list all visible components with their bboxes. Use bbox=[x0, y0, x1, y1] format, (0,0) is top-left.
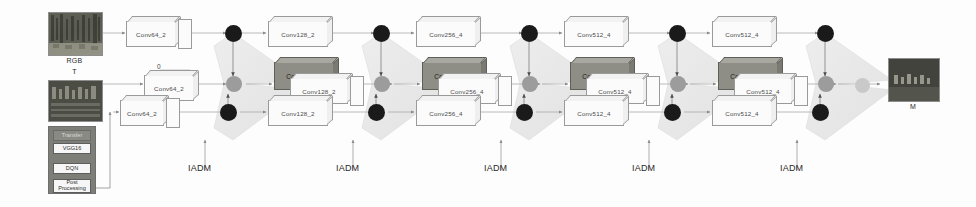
stage-1-conv-mid-cap bbox=[350, 76, 364, 106]
agent-module-stack: Transfer VGG16 DQN Post Processing bbox=[48, 126, 96, 194]
stem-conv-agent: Conv64_2 bbox=[120, 100, 164, 126]
stage-5-node-merge bbox=[855, 78, 870, 93]
zero-annotation: 0 bbox=[157, 63, 161, 70]
stem-conv-rgb-cap bbox=[178, 19, 192, 49]
stage-5-node-top bbox=[817, 25, 834, 42]
stage-2-conv-bottom: Conv256_4 bbox=[416, 100, 476, 126]
stage-5-iadm-label: IADM bbox=[780, 163, 803, 173]
stage-2-iadm-label: IADM bbox=[336, 163, 359, 173]
stage-1-conv-bottom: Conv128_2 bbox=[268, 100, 328, 126]
stage-1-node-top bbox=[225, 25, 242, 42]
agent-stack-cell-post-processing: Post Processing bbox=[53, 179, 91, 193]
stage-1-conv-top: Conv128_2 bbox=[268, 21, 328, 47]
stage-2-node-top bbox=[373, 25, 390, 42]
stage-3-conv-bottom: Conv512_4 bbox=[564, 100, 624, 126]
stage-2-conv-mid-cap bbox=[498, 76, 512, 106]
stage-4-iadm-label: IADM bbox=[632, 163, 655, 173]
agent-stack-cell-dqn: DQN bbox=[53, 163, 91, 174]
stage-3-conv-top: Conv512_4 bbox=[564, 21, 624, 47]
thermal-input-texture bbox=[49, 81, 102, 121]
rgb-input-image bbox=[48, 12, 103, 56]
stage-4-conv-top: Conv512_4 bbox=[712, 21, 772, 47]
stage-2-node-hub bbox=[374, 76, 390, 92]
output-mask-texture bbox=[889, 59, 939, 101]
stage-4-node-bottom bbox=[664, 104, 681, 121]
agent-stack-cell-transfer: Transfer bbox=[53, 130, 91, 141]
stage-3-node-bottom bbox=[516, 104, 533, 121]
stage-2-node-bottom bbox=[368, 104, 385, 121]
stage-4-conv-mid-cap bbox=[794, 76, 808, 106]
output-mask-label: M bbox=[888, 103, 938, 110]
rgb-input-label: RGB bbox=[48, 57, 101, 64]
architecture-diagram: RGB T Transfer VGG16 DQN Post Processing… bbox=[0, 0, 976, 207]
stage-2-conv-top: Conv256_4 bbox=[416, 21, 476, 47]
stage-3-node-top bbox=[521, 25, 538, 42]
stage-3-iadm-label: IADM bbox=[484, 163, 507, 173]
agent-stack-cell-vgg16: VGG16 bbox=[53, 143, 91, 154]
stage-1-node-bottom bbox=[220, 104, 237, 121]
stem-conv-rgb: Conv64_2 bbox=[126, 21, 176, 47]
stage-1-iadm-label: IADM bbox=[188, 163, 211, 173]
stage-5-node-hub bbox=[818, 76, 834, 92]
stage-3-node-hub bbox=[522, 76, 538, 92]
stem-conv-agent-cap bbox=[166, 98, 180, 128]
stage-1-node-hub bbox=[226, 76, 242, 92]
output-mask-image bbox=[888, 58, 940, 102]
stage-3-conv-mid-cap bbox=[646, 76, 660, 106]
rgb-input-texture bbox=[49, 13, 102, 55]
thermal-input-label: T bbox=[48, 68, 101, 75]
stage-4-node-hub bbox=[670, 76, 686, 92]
stage-4-conv-bottom: Conv512_4 bbox=[712, 100, 772, 126]
stage-4-node-top bbox=[669, 25, 686, 42]
thermal-input-image bbox=[48, 80, 103, 122]
stage-5-node-bottom bbox=[812, 104, 829, 121]
